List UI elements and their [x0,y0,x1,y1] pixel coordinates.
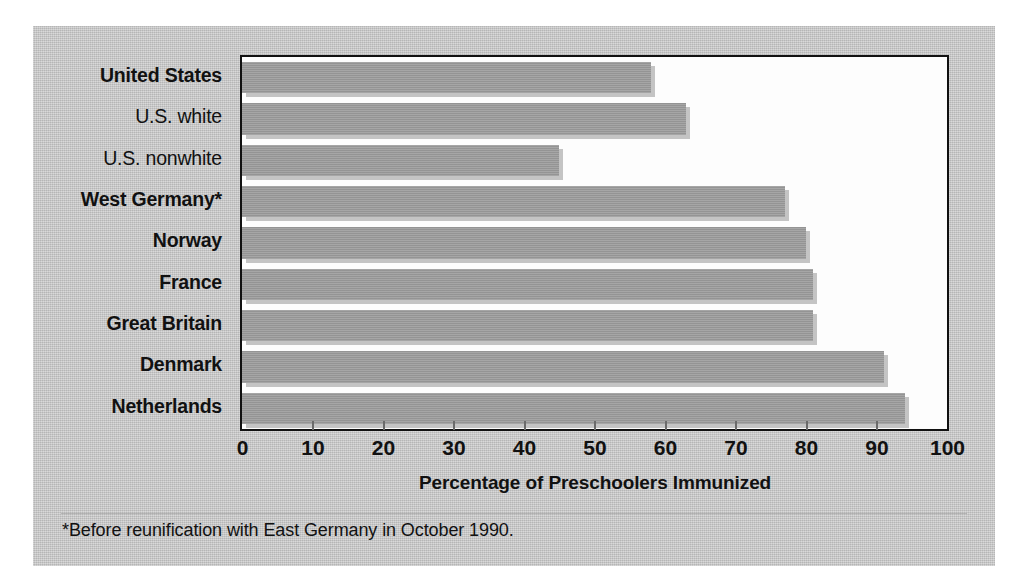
category-label-west-germany: West Germany* [33,179,233,220]
x-tick-label-60: 60 [654,436,677,460]
x-tick-label-100: 100 [930,436,965,460]
bar-row [242,98,947,139]
x-tick-label-10: 10 [301,436,324,460]
x-tick-mark-70 [735,421,737,430]
bar-united-states [242,62,651,93]
category-label-us-white: U.S. white [33,96,233,137]
x-tick-mark-60 [665,421,667,430]
bars-layer [242,57,947,429]
category-label-norway: Norway [33,220,233,261]
bar-great-britain [242,310,813,341]
x-axis-tick-labels: 0102030405060708090100 [240,436,950,464]
x-tick-mark-30 [453,421,455,430]
x-tick-label-40: 40 [513,436,536,460]
x-tick-mark-40 [524,421,526,430]
x-tick-label-30: 30 [442,436,465,460]
bar-row [242,305,947,346]
category-label-netherlands: Netherlands [33,386,233,427]
footnote-text: *Before reunification with East Germany … [62,520,514,541]
x-tick-label-20: 20 [372,436,395,460]
x-tick-mark-10 [312,421,314,430]
footnote-divider [61,513,967,514]
bar-row [242,140,947,181]
bar-row [242,57,947,98]
x-tick-label-70: 70 [724,436,747,460]
bar-us-white [242,103,686,134]
category-label-denmark: Denmark [33,344,233,385]
x-tick-label-0: 0 [237,436,249,460]
x-tick-mark-50 [594,421,596,430]
category-axis: United States U.S. white U.S. nonwhite W… [33,55,233,427]
plot-area [240,55,949,431]
bar-west-germany [242,186,785,217]
x-tick-mark-80 [806,421,808,430]
category-label-us-nonwhite: U.S. nonwhite [33,138,233,179]
x-tick-label-90: 90 [865,436,888,460]
category-label-great-britain: Great Britain [33,303,233,344]
bar-row [242,222,947,263]
chart-panel: United States U.S. white U.S. nonwhite W… [33,26,995,566]
bar-france [242,269,813,300]
bar-norway [242,227,806,258]
x-tick-mark-90 [876,421,878,430]
category-label-france: France [33,262,233,303]
bar-netherlands [242,393,905,424]
figure-root: United States U.S. white U.S. nonwhite W… [0,0,1029,587]
x-tick-mark-20 [383,421,385,430]
bar-row [242,181,947,222]
x-axis-title: Percentage of Preschoolers Immunized [240,472,950,494]
x-tick-label-50: 50 [583,436,606,460]
x-tick-label-80: 80 [795,436,818,460]
bar-row [242,346,947,387]
bar-denmark [242,351,884,382]
category-label-united-states: United States [33,55,233,96]
bar-us-nonwhite [242,145,559,176]
bar-row [242,264,947,305]
